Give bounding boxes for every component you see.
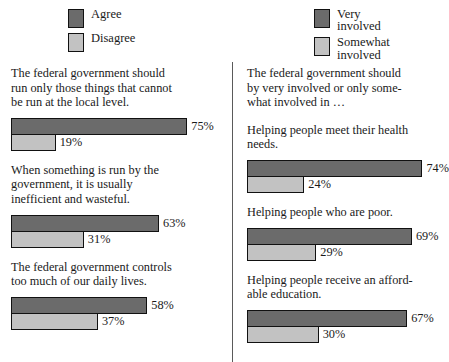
panel-intro-text: The federal government should by very in… [247,66,449,110]
legend-item: Disagree [68,32,135,52]
bar [247,160,422,177]
bar-row: 31% [11,231,232,248]
legend-swatch-icon [314,9,330,28]
bar-value-label: 69% [416,230,439,242]
bar-row: 58% [11,297,232,314]
bar-value-label: 75% [191,120,214,132]
bar-value-label: 58% [151,299,174,311]
bar [11,215,159,232]
bar-value-label: 24% [308,178,331,190]
legend-attitudes: AgreeDisagree [68,8,135,56]
question-group: Helping people receive an afford- able e… [247,273,449,343]
bar-value-label: 63% [163,217,186,229]
bar [247,326,319,343]
question-label: When something is run by the government,… [11,163,232,207]
question-group: Helping people meet their health needs.7… [247,123,449,193]
bar-row: 37% [11,313,232,330]
bar-row: 75% [11,118,232,135]
legend-item: Agree [68,8,135,28]
legend-item: Very involved [314,8,390,32]
bar-value-label: 31% [88,233,111,245]
bar [11,313,98,330]
bar [11,134,56,151]
question-label: The federal government should run only t… [11,66,232,110]
bar-group: 74%24% [247,160,449,193]
bar-row: 67% [247,310,449,327]
question-groups-involvement: The federal government should by very in… [239,66,449,355]
bar [247,310,407,327]
bar [11,231,84,248]
legend-swatch-icon [68,9,84,28]
bar-group: 69%29% [247,228,449,261]
bar [247,228,412,245]
legend-label: Agree [91,8,122,21]
bar [11,118,187,135]
question-group: When something is run by the government,… [11,163,232,248]
question-label: Helping people who are poor. [247,205,449,220]
bar-group: 58%37% [11,297,232,330]
bar-row: 63% [11,215,232,232]
bar-group: 67%30% [247,310,449,343]
bar-row: 30% [247,326,449,343]
bar-value-label: 29% [320,246,343,258]
bar-group: 75%19% [11,118,232,151]
bar-row: 29% [247,244,449,261]
bar [247,176,304,193]
question-group: The federal government controls too much… [11,260,232,330]
question-groups-attitudes: The federal government should run only t… [0,66,232,342]
question-label: The federal government controls too much… [11,260,232,289]
question-group: The federal government should run only t… [11,66,232,151]
legend-swatch-icon [68,33,84,52]
question-label: Helping people receive an afford- able e… [247,273,449,302]
chart-panel-involvement: Very involvedSomewhat involved The feder… [239,0,449,362]
bar-value-label: 74% [426,162,449,174]
panel-divider [232,62,233,362]
legend-label: Somewhat involved [337,36,390,60]
bar-row: 69% [247,228,449,245]
legend-item: Somewhat involved [314,36,390,60]
bar-value-label: 19% [60,136,83,148]
bar-row: 24% [247,176,449,193]
bar-row: 74% [247,160,449,177]
bar [247,244,316,261]
legend-involvement: Very involvedSomewhat involved [314,8,390,65]
bar-value-label: 37% [102,315,125,327]
bar-value-label: 30% [323,328,346,340]
chart-panel-attitudes: AgreeDisagree The federal government sho… [0,0,232,362]
legend-label: Very involved [337,8,381,32]
question-label: Helping people meet their health needs. [247,123,449,152]
bar [11,297,147,314]
question-group: Helping people who are poor.69%29% [247,205,449,261]
bar-value-label: 67% [411,312,434,324]
bar-group: 63%31% [11,215,232,248]
legend-swatch-icon [314,37,330,56]
bar-row: 19% [11,134,232,151]
legend-label: Disagree [91,32,135,45]
